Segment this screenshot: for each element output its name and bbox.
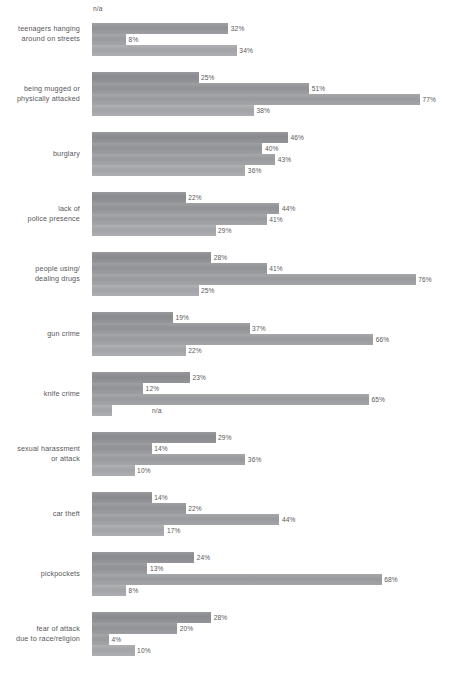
bar[interactable] <box>92 454 245 465</box>
bar[interactable] <box>92 525 164 536</box>
bars-area: 24%13%68%8% <box>86 552 453 596</box>
bar[interactable] <box>92 574 382 585</box>
bar[interactable] <box>92 383 143 394</box>
bar-row: 22% <box>92 345 453 356</box>
chart-group: fear of attack due to race/religion28%20… <box>0 612 453 656</box>
bar[interactable] <box>92 312 173 323</box>
bar-row: 37% <box>92 323 453 334</box>
bar[interactable] <box>92 372 190 383</box>
bar[interactable] <box>92 612 211 623</box>
bar-row: 44% <box>92 203 453 214</box>
bar[interactable] <box>92 274 416 285</box>
bar[interactable] <box>92 345 186 356</box>
bar-value-label: 10% <box>135 645 151 656</box>
bar[interactable] <box>92 252 211 263</box>
bar[interactable] <box>92 214 267 225</box>
bar[interactable] <box>92 645 135 656</box>
bar-row: 28% <box>92 612 453 623</box>
bar[interactable] <box>92 132 288 143</box>
bar[interactable] <box>92 285 199 296</box>
chart-group: pickpockets24%13%68%8% <box>0 552 453 596</box>
chart-group: knife crime23%12%65%n/a <box>0 372 453 416</box>
bar-value-label: 10% <box>135 465 151 476</box>
bar[interactable] <box>92 623 177 634</box>
bar[interactable] <box>92 83 309 94</box>
bar-value-label: 68% <box>382 574 398 585</box>
bar[interactable] <box>92 514 279 525</box>
bar-value-label: 19% <box>173 312 189 323</box>
bar[interactable] <box>92 465 135 476</box>
bar[interactable] <box>92 563 147 574</box>
bar[interactable] <box>92 552 194 563</box>
bar-value-label: 44% <box>279 514 295 525</box>
bar-row: 22% <box>92 503 453 514</box>
bar[interactable] <box>92 432 216 443</box>
bar[interactable] <box>92 334 373 345</box>
chart-group: being mugged or physically attacked25%51… <box>0 72 453 116</box>
bar[interactable] <box>92 503 186 514</box>
bar-row: 28% <box>92 252 453 263</box>
bar-value-label: 12% <box>143 383 159 394</box>
bar[interactable] <box>92 394 369 405</box>
bar-row: 76% <box>92 274 453 285</box>
bar-row: 68% <box>92 574 453 585</box>
bar[interactable] <box>92 45 237 56</box>
bar-value-label: 8% <box>126 34 138 45</box>
bar[interactable] <box>92 154 275 165</box>
bar-row: 23% <box>92 372 453 383</box>
bar-row: n/a <box>92 405 453 416</box>
bars-area: 28%20%4%10% <box>86 612 453 656</box>
bars-area: 19%37%66%22% <box>86 312 453 356</box>
bar[interactable] <box>92 23 228 34</box>
bar-value-label: 41% <box>267 263 283 274</box>
bar-value-label: 38% <box>254 105 270 116</box>
bar-row: 8% <box>92 585 453 596</box>
bar-row: 43% <box>92 154 453 165</box>
bar-value-label: 28% <box>211 252 227 263</box>
bar[interactable] <box>92 585 126 596</box>
bar-row: 29% <box>92 432 453 443</box>
bar-row: 14% <box>92 492 453 503</box>
bar[interactable] <box>92 443 152 454</box>
bar[interactable] <box>92 192 186 203</box>
bar-value-label: 4% <box>109 634 121 645</box>
bar-row: 66% <box>92 334 453 345</box>
bar-row: 36% <box>92 454 453 465</box>
bar-value-label: 41% <box>267 214 283 225</box>
bar-row: 40% <box>92 143 453 154</box>
bar-value-label: 25% <box>199 285 215 296</box>
bar[interactable] <box>92 405 112 416</box>
bar-value-label: 24% <box>194 552 210 563</box>
bar[interactable] <box>92 105 254 116</box>
chart-group: sexual harassment or attack29%14%36%10% <box>0 432 453 476</box>
bar-row: 51% <box>92 83 453 94</box>
bar-value-label: 44% <box>279 203 295 214</box>
bar-row: 29% <box>92 225 453 236</box>
group-label: pickpockets <box>0 569 86 579</box>
group-label: people using/ dealing drugs <box>0 264 86 283</box>
bar-value-label: 22% <box>186 503 202 514</box>
bar[interactable] <box>92 94 420 105</box>
group-label: sexual harassment or attack <box>0 444 86 463</box>
bar[interactable] <box>92 143 262 154</box>
bar-value-label: 22% <box>186 345 202 356</box>
bar[interactable] <box>92 165 245 176</box>
bar-value-label: 43% <box>275 154 291 165</box>
bar-row: 8% <box>92 34 453 45</box>
group-label: burglary <box>0 149 86 159</box>
bar[interactable] <box>92 323 250 334</box>
bar[interactable] <box>92 225 216 236</box>
group-label: being mugged or physically attacked <box>0 84 86 103</box>
bar[interactable] <box>92 203 279 214</box>
bar[interactable] <box>92 34 126 45</box>
bar[interactable] <box>92 263 267 274</box>
bar[interactable] <box>92 72 199 83</box>
bar-row: 38% <box>92 105 453 116</box>
bar-row: 36% <box>92 165 453 176</box>
bar[interactable] <box>92 492 152 503</box>
bar[interactable] <box>92 634 109 645</box>
bar-value-label: 76% <box>416 274 432 285</box>
bar-row: 77% <box>92 94 453 105</box>
bar-value-label: 8% <box>126 585 138 596</box>
bars-area: 23%12%65%n/a <box>86 372 453 416</box>
